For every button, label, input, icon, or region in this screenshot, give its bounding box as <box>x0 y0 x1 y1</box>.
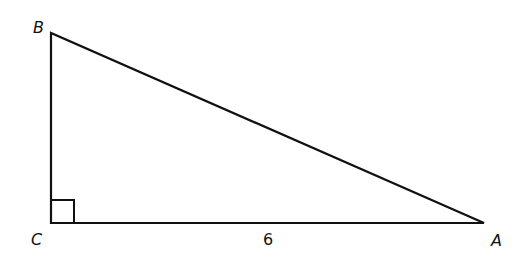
triangle-diagram: B C A 6 <box>0 0 520 266</box>
right-angle-marker <box>51 200 74 223</box>
triangle-abc <box>51 33 484 223</box>
vertex-label-a: A <box>490 231 502 250</box>
vertex-label-c: C <box>31 230 43 249</box>
side-length-label-ca: 6 <box>263 230 273 249</box>
vertex-label-b: B <box>33 18 44 37</box>
